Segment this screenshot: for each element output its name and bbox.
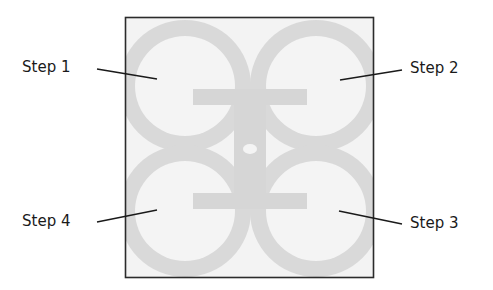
center-hole bbox=[243, 144, 257, 154]
lobe-bottom-right bbox=[266, 161, 366, 261]
lobe-top-right bbox=[266, 36, 366, 136]
step-2-label: Step 2 bbox=[410, 59, 458, 77]
step-3-label: Step 3 bbox=[410, 214, 458, 232]
lobe-top-left bbox=[135, 36, 235, 136]
step-4-label: Step 4 bbox=[22, 212, 70, 230]
step-1-label: Step 1 bbox=[22, 58, 70, 76]
cycle-diagram bbox=[0, 0, 493, 290]
top-gap bbox=[244, 18, 256, 26]
